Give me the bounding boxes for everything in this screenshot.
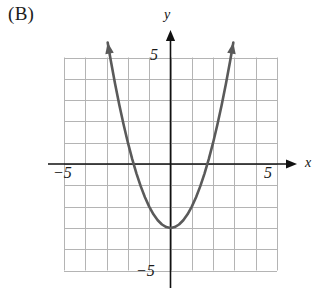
parabola-left-arrow-icon bbox=[105, 43, 113, 55]
coordinate-plane-svg bbox=[0, 0, 324, 293]
x-axis-tick-label-positive: 5 bbox=[264, 165, 272, 181]
y-axis-arrow-icon bbox=[166, 30, 175, 41]
y-axis-tick-label-positive: 5 bbox=[150, 47, 158, 63]
plot-area: y x 5 −5 −5 5 bbox=[0, 0, 324, 293]
parabola-right-arrow-icon bbox=[227, 43, 235, 55]
parabola-figure: (B) y x 5 −5 −5 5 bbox=[0, 0, 324, 293]
y-axis-label: y bbox=[164, 8, 170, 22]
x-axis-arrow-icon bbox=[286, 159, 297, 168]
y-axis-tick-label-negative: −5 bbox=[136, 263, 155, 279]
x-axis-label: x bbox=[305, 156, 311, 170]
x-axis-tick-label-negative: −5 bbox=[53, 165, 72, 181]
